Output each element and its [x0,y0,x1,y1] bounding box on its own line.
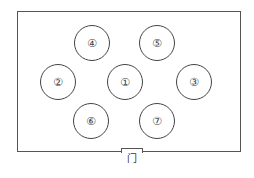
table-label: ① [120,76,130,89]
table-5: ⑤ [139,25,175,61]
table-1: ① [107,64,143,100]
table-4: ④ [74,25,110,61]
table-label: ② [53,76,63,89]
table-6: ⑥ [73,103,109,139]
table-label: ③ [189,76,199,89]
table-label: ⑥ [86,115,96,128]
table-7: ⑦ [139,103,175,139]
table-3: ③ [176,64,212,100]
door-label: 门 [126,153,138,165]
table-label: ④ [87,37,97,50]
table-label: ⑦ [152,115,162,128]
table-label: ⑤ [152,37,162,50]
table-2: ② [40,64,76,100]
